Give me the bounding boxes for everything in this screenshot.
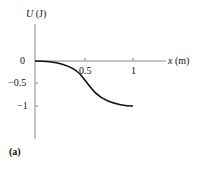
x-tick-label-05: 0.5 — [79, 66, 92, 76]
x-axis-label: x (m) — [168, 56, 189, 66]
chart-canvas — [0, 0, 202, 169]
y-axis-unit: (J) — [33, 8, 46, 19]
x-tick-label-1: 1 — [131, 66, 136, 76]
y-tick-label-m05: −0.5 — [8, 78, 26, 88]
y-axis-label: U (J) — [26, 9, 46, 19]
y-tick-label-0: 0 — [20, 56, 25, 66]
x-axis-unit: (m) — [172, 55, 189, 66]
y-tick-label-m1: −1 — [17, 101, 28, 111]
panel-label: (a) — [9, 147, 21, 157]
